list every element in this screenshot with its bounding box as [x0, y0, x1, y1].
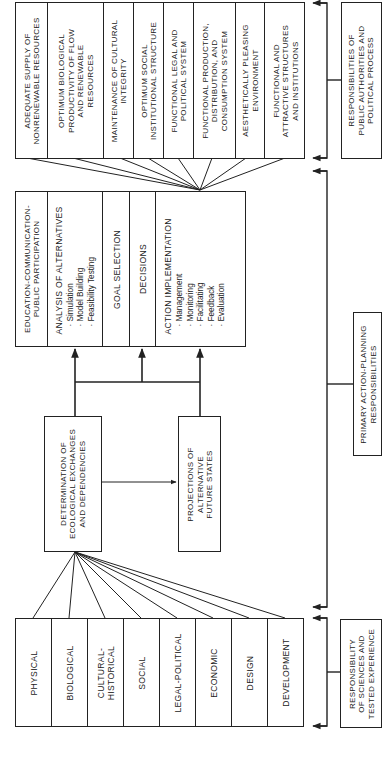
- sciences-responsibility-box: RESPONSIBILITY OF SCIENCES AND TESTED EX…: [340, 619, 382, 728]
- education-label: EDUCATION-COMMUNICATION- PUBLIC PARTICIP…: [22, 205, 41, 333]
- inventory-cultural-historical: CULTURAL- HISTORICAL: [88, 619, 124, 726]
- goal-selection-label: GOAL SELECTION: [111, 230, 121, 309]
- analysis-item: · Feasibility Testing: [86, 257, 97, 334]
- inventory-development: DEVELOPMENT: [268, 619, 303, 726]
- analysis-item: · Model Building: [76, 267, 87, 334]
- goal-aesthetic-environment: AESTHETICALLY PLEASING ENVIRONMENT: [236, 3, 265, 158]
- determination-box: DETERMINATION OF ECOLOGICAL EXCHANGES AN…: [44, 416, 102, 552]
- inventory-physical: PHYSICAL: [16, 619, 52, 726]
- inventory-biological: BIOLOGICAL: [52, 619, 88, 726]
- action-item: · Feedback: [206, 285, 217, 334]
- inventory-label: SOCIAL: [137, 656, 147, 689]
- public-authorities-responsibility-box: RESPONSIBILITIES OF PUBLIC AUTHORITIES A…: [341, 2, 382, 159]
- action-title: ACTION IMPLEMENTATION: [162, 218, 172, 334]
- education-participation: EDUCATION-COMMUNICATION- PUBLIC PARTICIP…: [16, 192, 48, 346]
- goal-cultural-integrity: MAINTENANCE OF CULTURAL INTEGRITY: [104, 3, 134, 158]
- inventory-legal-political: LEGAL-POLITICAL: [160, 619, 196, 726]
- sciences-label: RESPONSIBILITY OF SCIENCES AND TESTED EX…: [347, 628, 376, 718]
- goal-label: FUNCTIONAL LEGAL AND POLITICAL SYSTEM: [169, 29, 188, 132]
- goal-social-structure: OPTIMUM SOCIAL INSTITUTIONAL STRUCTURE: [134, 3, 164, 158]
- inventory-label: ECONOMIC: [209, 648, 219, 698]
- goal-label: FUNCTIONAL AND ATTRACTIVE STRUCTURES AND…: [271, 24, 300, 136]
- analysis-item: · Simulation: [65, 283, 76, 334]
- inventory-label: BIOLOGICAL: [65, 645, 75, 700]
- action-planning-label: PRIMARY ACTION-PLANNING RESPONSIBILITIES: [358, 325, 377, 444]
- analysis-of-alternatives: ANALYSIS OF ALTERNATIVES · Simulation · …: [48, 192, 103, 346]
- goal-label: FUNCTIONAL PRODUCTION, DISTRIBUTION, AND…: [200, 23, 229, 139]
- inventory-design: DESIGN: [232, 619, 268, 726]
- action-item: · Facilitating: [195, 282, 206, 334]
- goals-box: ADEQUATE SUPPLY OF NONRENEWABLE RESOURCE…: [15, 2, 305, 159]
- action-item: · Monitoring: [185, 283, 196, 334]
- inventory-label: DESIGN: [245, 655, 255, 690]
- inventory-social: SOCIAL: [124, 619, 160, 726]
- planning-process-box: EDUCATION-COMMUNICATION- PUBLIC PARTICIP…: [15, 191, 246, 347]
- goal-attractive-structures: FUNCTIONAL AND ATTRACTIVE STRUCTURES AND…: [265, 3, 305, 158]
- analysis-title: ANALYSIS OF ALTERNATIVES: [53, 206, 63, 334]
- goal-production-system: FUNCTIONAL PRODUCTION, DISTRIBUTION, AND…: [194, 3, 236, 158]
- decisions-label: DECISIONS: [138, 244, 148, 294]
- goal-selection: GOAL SELECTION: [103, 192, 130, 346]
- inventory-label: DEVELOPMENT: [281, 638, 291, 706]
- determination-label: DETERMINATION OF ECOLOGICAL EXCHANGES AN…: [59, 429, 88, 539]
- goal-label: AESTHETICALLY PLEASING ENVIRONMENT: [241, 24, 260, 137]
- goal-label: ADEQUATE SUPPLY OF NONRENEWABLE RESOURCE…: [22, 17, 41, 144]
- goal-label: MAINTENANCE OF CULTURAL INTEGRITY: [109, 19, 128, 141]
- projections-box: PROJECTIONS OF ALTERNATIVE FUTURE STATES: [178, 416, 221, 552]
- action-item: · Management: [174, 273, 185, 334]
- action-implementation: ACTION IMPLEMENTATION · Management · Mon…: [156, 192, 245, 346]
- public-authorities-label: RESPONSIBILITIES OF PUBLIC AUTHORITIES A…: [347, 26, 376, 136]
- action-item: · Evaluation: [216, 283, 227, 334]
- decisions: DECISIONS: [130, 192, 156, 346]
- goal-label: OPTIMUM BIOLOGICAL PRODUCTIVITY OF FLOW …: [57, 28, 95, 132]
- action-planning-responsibility-box: PRIMARY ACTION-PLANNING RESPONSIBILITIES: [353, 312, 382, 456]
- projections-label: PROJECTIONS OF ALTERNATIVE FUTURE STATES: [185, 447, 214, 521]
- inventory-label: CULTURAL- HISTORICAL: [96, 645, 116, 699]
- inventories-box: PHYSICAL BIOLOGICAL CULTURAL- HISTORICAL…: [15, 618, 304, 727]
- inventory-label: PHYSICAL: [29, 650, 39, 695]
- goal-legal-political-system: FUNCTIONAL LEGAL AND POLITICAL SYSTEM: [164, 3, 194, 158]
- inventory-label: LEGAL-POLITICAL: [173, 633, 183, 712]
- goal-nonrenewable-resources: ADEQUATE SUPPLY OF NONRENEWABLE RESOURCE…: [16, 3, 48, 158]
- inventory-economic: ECONOMIC: [196, 619, 232, 726]
- goal-biological-productivity: OPTIMUM BIOLOGICAL PRODUCTIVITY OF FLOW …: [48, 3, 104, 158]
- goal-label: OPTIMUM SOCIAL INSTITUTIONAL STRUCTURE: [139, 21, 158, 139]
